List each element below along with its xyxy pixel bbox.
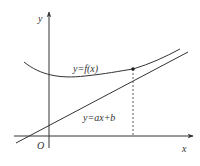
line-label: y=ax+b xyxy=(82,112,115,123)
linear-function-line xyxy=(16,52,188,143)
diagram-canvas: y x O y=f(x) y=ax+b xyxy=(0,0,200,166)
tangent-point xyxy=(131,67,135,71)
origin-label: O xyxy=(37,140,44,151)
curve-label: y=f(x) xyxy=(72,63,99,75)
function-curve xyxy=(24,49,180,77)
x-axis-label: x xyxy=(181,143,187,154)
y-axis-label: y xyxy=(37,13,43,24)
